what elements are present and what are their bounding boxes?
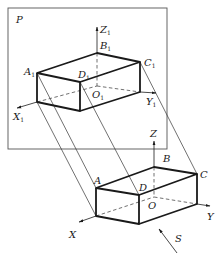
label-z: Z — [149, 128, 158, 139]
label-z1: Z1 — [99, 24, 111, 36]
label-y1: Y1 — [146, 96, 156, 108]
spatial-axes — [79, 141, 210, 253]
label-a1: A1 — [23, 66, 35, 78]
label-x1: X1 — [12, 111, 24, 123]
label-y: Y — [207, 211, 215, 222]
label-c: C — [200, 169, 208, 180]
spatial-box — [96, 167, 197, 224]
label-x: X — [68, 229, 77, 240]
label-o: O — [148, 200, 156, 211]
label-s: S — [175, 233, 182, 244]
label-b1: B1 — [99, 40, 111, 52]
y-axis — [197, 204, 210, 206]
label-b: B — [162, 153, 170, 164]
oblique-axonometric-projection-diagram: P Z1 B1 C1 A1 D1 O1 Y1 X1 — [0, 0, 220, 261]
projected-box — [37, 53, 140, 111]
label-d1: D1 — [77, 69, 90, 81]
x-axis — [79, 216, 96, 222]
x1-axis — [17, 102, 37, 108]
label-c1: C1 — [144, 57, 155, 69]
label-a: A — [93, 175, 101, 186]
projection-rays — [37, 62, 197, 216]
y1-axis — [140, 92, 156, 93]
label-d: D — [138, 182, 147, 193]
plane-label: P — [15, 14, 23, 25]
label-o1: O1 — [92, 89, 104, 101]
